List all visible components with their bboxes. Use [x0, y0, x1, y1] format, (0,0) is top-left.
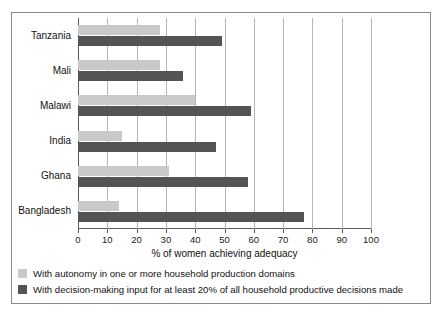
legend-swatch-autonomy [18, 269, 27, 278]
bar-autonomy [78, 60, 160, 70]
gridline-100 [371, 18, 372, 229]
bar-autonomy [78, 25, 160, 35]
legend-label-autonomy: With autonomy in one or more household p… [33, 268, 295, 279]
bar-decision-making [78, 177, 248, 187]
x-tick-label-20: 20 [131, 234, 142, 245]
x-tick-label-50: 50 [219, 234, 230, 245]
bar-autonomy [78, 166, 169, 176]
category-label: Mali [53, 65, 71, 76]
bar-group: Mali [78, 53, 371, 88]
legend-label-decision-making: With decision-making input for at least … [33, 284, 403, 295]
category-label: Malawi [40, 100, 71, 111]
category-label: Ghana [41, 170, 71, 181]
x-tick-label-70: 70 [278, 234, 289, 245]
x-tick-40 [195, 229, 196, 233]
bar-group: India [78, 124, 371, 159]
x-axis-title: % of women achieving adequacy [78, 248, 371, 259]
x-tick-10 [107, 229, 108, 233]
x-tick-80 [312, 229, 313, 233]
bar-decision-making [78, 36, 222, 46]
legend-item-decision-making: With decision-making input for at least … [18, 282, 428, 296]
bar-autonomy [78, 95, 195, 105]
bar-decision-making [78, 71, 183, 81]
bar-autonomy [78, 201, 119, 211]
x-tick-70 [283, 229, 284, 233]
x-tick-label-100: 100 [363, 234, 379, 245]
bar-group: Tanzania [78, 18, 371, 53]
bar-decision-making [78, 106, 251, 116]
x-tick-label-60: 60 [249, 234, 260, 245]
x-tick-90 [342, 229, 343, 233]
x-tick-label-80: 80 [307, 234, 318, 245]
legend-swatch-decision-making [18, 285, 27, 294]
category-label: India [49, 135, 71, 146]
bar-autonomy [78, 131, 122, 141]
x-tick-60 [254, 229, 255, 233]
bar-group: Malawi [78, 88, 371, 123]
x-tick-label-30: 30 [161, 234, 172, 245]
bar-decision-making [78, 142, 216, 152]
x-tick-label-10: 10 [102, 234, 113, 245]
x-tick-30 [166, 229, 167, 233]
chart-legend: With autonomy in one or more household p… [18, 266, 428, 298]
plot-area: 0102030405060708090100TanzaniaMaliMalawi… [0, 0, 443, 316]
x-tick-20 [137, 229, 138, 233]
chart-figure: 0102030405060708090100TanzaniaMaliMalawi… [0, 0, 443, 316]
x-tick-100 [371, 229, 372, 233]
x-tick-label-90: 90 [336, 234, 347, 245]
x-tick-label-0: 0 [75, 234, 80, 245]
x-tick-50 [225, 229, 226, 233]
plot-axes: 0102030405060708090100TanzaniaMaliMalawi… [78, 18, 371, 229]
bar-decision-making [78, 212, 304, 222]
x-tick-0 [78, 229, 79, 233]
x-tick-label-40: 40 [190, 234, 201, 245]
category-label: Bangladesh [18, 205, 71, 216]
bar-group: Bangladesh [78, 194, 371, 229]
bar-group: Ghana [78, 159, 371, 194]
legend-item-autonomy: With autonomy in one or more household p… [18, 266, 428, 280]
category-label: Tanzania [31, 30, 71, 41]
